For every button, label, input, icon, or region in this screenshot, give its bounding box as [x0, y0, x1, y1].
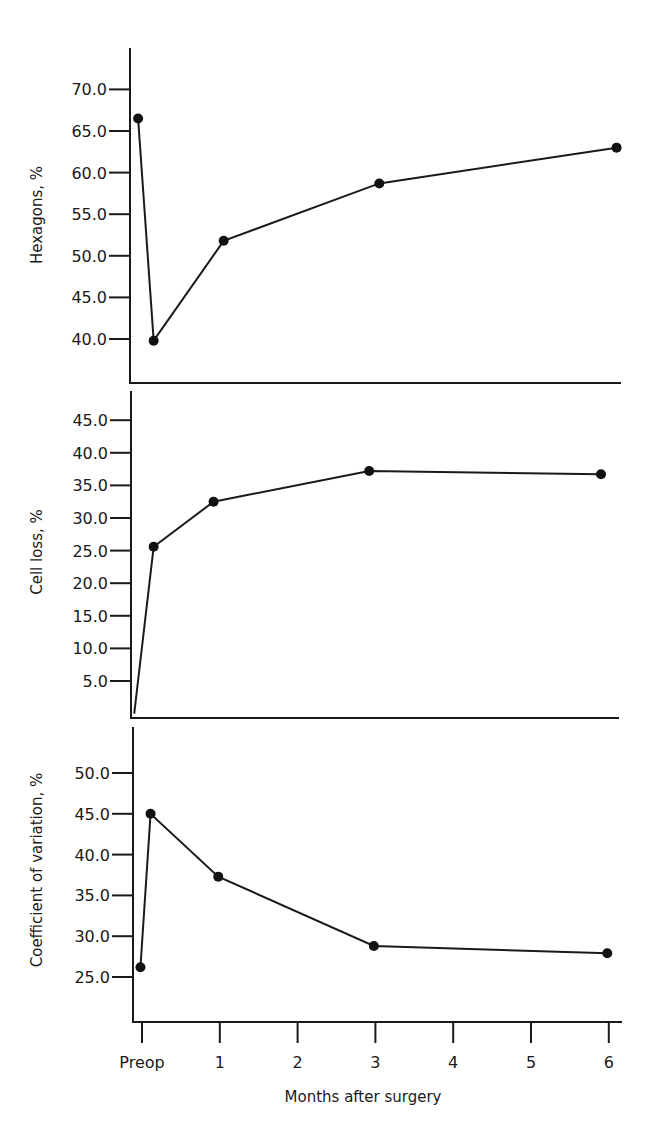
y-tick-label: 30.0: [72, 509, 108, 528]
hexagons-panel: 40.045.050.055.060.065.070.0Hexagons, %: [28, 48, 622, 383]
x-tick-label: 4: [448, 1053, 458, 1072]
y-axis-title: Coefficient of variation, %: [28, 773, 46, 968]
y-tick-label: 25.0: [72, 542, 108, 561]
y-tick-label: 40.0: [71, 330, 107, 349]
x-tick-label: 3: [370, 1053, 380, 1072]
y-tick-label: 45.0: [71, 288, 107, 307]
y-tick-label: 10.0: [72, 639, 108, 658]
x-axis-title: Months after surgery: [285, 1088, 442, 1106]
x-tick-label: 5: [526, 1053, 536, 1072]
series-line: [138, 119, 616, 341]
y-tick-label: 65.0: [71, 122, 107, 141]
y-axis-title: Cell loss, %: [28, 509, 46, 595]
chart-figure: 40.045.050.055.060.065.070.0Hexagons, % …: [0, 0, 665, 1134]
y-tick-label: 35.0: [72, 476, 108, 495]
data-point: [209, 497, 219, 507]
axis-frame: [131, 391, 619, 718]
data-point: [612, 143, 622, 153]
data-point: [374, 178, 384, 188]
data-point: [213, 872, 223, 882]
data-point: [135, 962, 145, 972]
y-tick-label: 25.0: [74, 968, 110, 987]
y-tick-label: 35.0: [74, 886, 110, 905]
data-point: [149, 542, 159, 552]
cell-loss-panel: 5.010.015.020.025.030.035.040.045.0Cell …: [28, 391, 619, 718]
y-tick-label: 45.0: [74, 805, 110, 824]
x-tick-label: 6: [604, 1053, 614, 1072]
data-point: [602, 948, 612, 958]
y-tick-label: 15.0: [72, 607, 108, 626]
x-tick-label: 2: [293, 1053, 303, 1072]
series-line: [134, 471, 601, 714]
x-tick-label: Preop: [119, 1053, 164, 1072]
y-tick-label: 30.0: [74, 927, 110, 946]
y-tick-label: 40.0: [72, 444, 108, 463]
coefficient-of-variation-panel: 25.030.035.040.045.050.0Coefficient of v…: [28, 727, 622, 1022]
x-tick-label: 1: [215, 1053, 225, 1072]
data-point: [219, 236, 229, 246]
x-axis: Preop123456: [119, 1022, 614, 1072]
axis-frame: [133, 727, 622, 1022]
y-tick-label: 20.0: [72, 574, 108, 593]
y-tick-label: 5.0: [83, 672, 108, 691]
y-tick-label: 50.0: [71, 247, 107, 266]
y-tick-label: 50.0: [74, 764, 110, 783]
y-tick-label: 45.0: [72, 411, 108, 430]
data-point: [369, 941, 379, 951]
data-point: [596, 469, 606, 479]
axis-frame: [130, 48, 621, 383]
data-point: [149, 336, 159, 346]
y-axis-title: Hexagons, %: [28, 166, 46, 264]
data-point: [364, 466, 374, 476]
data-point: [133, 114, 143, 124]
data-point: [146, 809, 156, 819]
y-tick-label: 60.0: [71, 164, 107, 183]
y-tick-label: 40.0: [74, 846, 110, 865]
y-tick-label: 70.0: [71, 80, 107, 99]
y-tick-label: 55.0: [71, 205, 107, 224]
